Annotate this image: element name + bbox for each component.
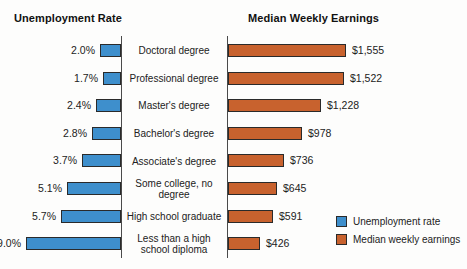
legend-label: Unemployment rate xyxy=(353,216,440,227)
unemployment-bar xyxy=(82,154,121,167)
chart-row: 5.1%Some college, no degree$645 xyxy=(0,175,467,203)
category-label: Some college, no degree xyxy=(124,175,224,203)
earnings-bar xyxy=(228,210,273,223)
category-label: Less than a high school diploma xyxy=(124,230,224,258)
legend-item: Median weekly earnings xyxy=(336,231,460,247)
legend-swatch-icon xyxy=(336,216,347,227)
unemployment-value-label: 2.4% xyxy=(67,98,91,112)
earnings-bar xyxy=(228,99,321,112)
unemployment-value-label: 5.7% xyxy=(32,209,56,223)
unemployment-bar xyxy=(67,182,121,195)
earnings-bar xyxy=(228,237,260,250)
unemployment-value-label: 2.8% xyxy=(63,126,87,140)
earnings-bar xyxy=(228,127,302,140)
legend-item: Unemployment rate xyxy=(336,213,460,229)
earnings-bar xyxy=(228,154,284,167)
unemployment-bar xyxy=(100,44,121,57)
earnings-bar xyxy=(228,72,344,85)
category-label: Associate's degree xyxy=(124,147,224,175)
education-earnings-chart: Unemployment Rate Median Weekly Earnings… xyxy=(0,0,467,269)
category-label: High school graduate xyxy=(124,203,224,231)
unemployment-bar xyxy=(103,72,121,85)
chart-row: 2.8%Bachelor's degree$978 xyxy=(0,120,467,148)
earnings-value-label: $1,228 xyxy=(327,98,359,112)
unemployment-value-label: 5.1% xyxy=(38,181,62,195)
earnings-value-label: $426 xyxy=(266,236,289,250)
unemployment-bar xyxy=(96,99,121,112)
chart-row: 2.0%Doctoral degree$1,555 xyxy=(0,37,467,65)
category-label: Master's degree xyxy=(124,92,224,120)
earnings-value-label: $736 xyxy=(290,153,313,167)
category-label: Professional degree xyxy=(124,65,224,93)
legend-swatch-icon xyxy=(336,234,347,245)
earnings-bar xyxy=(228,44,346,57)
earnings-value-label: $645 xyxy=(283,181,306,195)
left-chart-title: Unemployment Rate xyxy=(14,12,122,24)
chart-row: 1.7%Professional degree$1,522 xyxy=(0,65,467,93)
category-label: Doctoral degree xyxy=(124,37,224,65)
earnings-bar xyxy=(228,182,277,195)
unemployment-value-label: 3.7% xyxy=(53,153,77,167)
right-chart-title: Median Weekly Earnings xyxy=(248,12,379,24)
unemployment-value-label: 9.0% xyxy=(0,236,21,250)
legend-label: Median weekly earnings xyxy=(353,234,460,245)
unemployment-bar xyxy=(92,127,121,140)
chart-row: 3.7%Associate's degree$736 xyxy=(0,147,467,175)
category-label: Bachelor's degree xyxy=(124,120,224,148)
earnings-value-label: $978 xyxy=(308,126,331,140)
unemployment-bar xyxy=(61,210,121,223)
chart-row: 2.4%Master's degree$1,228 xyxy=(0,92,467,120)
earnings-value-label: $1,522 xyxy=(350,71,382,85)
unemployment-bar xyxy=(26,237,121,250)
unemployment-value-label: 2.0% xyxy=(71,43,95,57)
earnings-value-label: $591 xyxy=(279,209,302,223)
earnings-value-label: $1,555 xyxy=(352,43,384,57)
unemployment-value-label: 1.7% xyxy=(74,71,98,85)
chart-legend: Unemployment rateMedian weekly earnings xyxy=(336,213,460,249)
